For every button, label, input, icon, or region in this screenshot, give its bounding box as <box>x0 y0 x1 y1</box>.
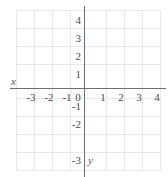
x-axis-label: x <box>11 76 16 87</box>
grid-lines-vertical <box>17 10 161 170</box>
y-tick-label: 1 <box>63 69 81 80</box>
y-axis-label: y <box>88 155 93 166</box>
coordinate-grid <box>0 0 168 177</box>
y-tick-label: 2 <box>63 51 81 62</box>
x-tick-label: -3 <box>22 92 40 103</box>
x-tick-label: -2 <box>40 92 58 103</box>
x-tick-label: 1 <box>94 92 112 103</box>
x-tick-label: 3 <box>130 92 148 103</box>
coordinate-plane-figure: -3 -2 -1 0 1 2 3 4 4 3 2 1 -1 -2 -3 x y <box>0 0 168 177</box>
x-tick-label: 2 <box>112 92 130 103</box>
y-tick-label: -1 <box>63 101 81 112</box>
y-tick-label: -3 <box>63 155 81 166</box>
y-tick-label: -2 <box>63 119 81 130</box>
y-tick-label: 4 <box>63 15 81 26</box>
x-tick-label: 4 <box>148 92 166 103</box>
y-tick-label: 3 <box>63 33 81 44</box>
